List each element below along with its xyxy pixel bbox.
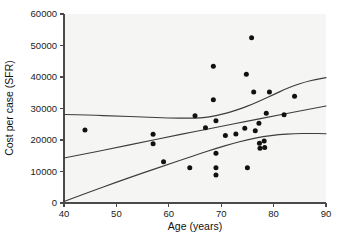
y-tick-label: 20000 (31, 134, 57, 145)
data-point (264, 111, 269, 116)
x-axis-title: Age (years) (168, 220, 222, 232)
data-point (292, 94, 297, 99)
data-point (211, 64, 216, 69)
data-point (257, 141, 262, 146)
data-point (151, 141, 156, 146)
y-tick-label: 0 (52, 197, 57, 208)
x-tick-label: 40 (59, 208, 70, 219)
data-point (249, 35, 254, 40)
data-point (251, 90, 256, 95)
y-tick-label: 60000 (31, 8, 57, 19)
chart-figure: 0100002000030000400005000060000 40506070… (0, 0, 342, 244)
data-point (213, 165, 218, 170)
y-tick-label: 10000 (31, 166, 57, 177)
x-axis-ticks: 405060708090 (59, 203, 332, 219)
data-point (213, 118, 218, 123)
data-point (151, 132, 156, 137)
scatter-plot: 0100002000030000400005000060000 40506070… (0, 0, 342, 244)
data-point (242, 126, 247, 131)
data-point (262, 145, 267, 150)
x-tick-label: 60 (164, 208, 175, 219)
y-tick-label: 50000 (31, 40, 57, 51)
data-point (193, 113, 198, 118)
y-axis-ticks: 0100002000030000400005000060000 (31, 8, 64, 208)
data-point (82, 127, 87, 132)
data-point (257, 146, 262, 151)
data-point (203, 125, 208, 130)
data-point (211, 97, 216, 102)
data-point (187, 165, 192, 170)
data-point (161, 159, 166, 164)
y-axis-title: Cost per case (SFR) (3, 60, 15, 156)
y-tick-label: 30000 (31, 103, 57, 114)
data-point (282, 112, 287, 117)
data-point (267, 90, 272, 95)
y-tick-label: 40000 (31, 71, 57, 82)
data-point (233, 132, 238, 137)
data-point (213, 151, 218, 156)
data-point (253, 128, 258, 133)
x-tick-label: 70 (216, 208, 227, 219)
data-point (223, 133, 228, 138)
plot-area-background (64, 14, 326, 203)
data-point (245, 165, 250, 170)
x-tick-label: 90 (321, 208, 332, 219)
x-tick-label: 80 (268, 208, 279, 219)
data-point (262, 138, 267, 143)
x-tick-label: 50 (111, 208, 122, 219)
data-point (244, 72, 249, 77)
data-point (213, 172, 218, 177)
data-point (256, 121, 261, 126)
